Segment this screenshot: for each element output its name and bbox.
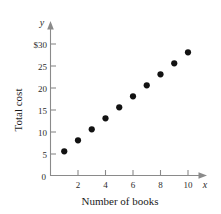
y-tick-label-30: $30 — [34, 40, 48, 50]
y-tick-marks — [51, 44, 57, 154]
data-point — [89, 126, 95, 132]
y-tick-label-5: 5 — [43, 150, 48, 160]
data-point — [185, 49, 191, 55]
x-tick-label-10: 10 — [184, 180, 194, 190]
x-tick-label-4: 4 — [103, 180, 108, 190]
y-axis-arrow-icon — [47, 21, 54, 30]
y-tick-label-10: 10 — [38, 128, 48, 138]
data-point-series — [61, 49, 191, 154]
y-tick-label-25: 25 — [38, 62, 48, 72]
x-tick-label-2: 2 — [76, 180, 81, 190]
x-axis — [51, 172, 208, 179]
x-axis-title: Number of books — [82, 195, 159, 207]
x-axis-variable-label: x — [202, 179, 208, 190]
data-point — [75, 137, 81, 143]
data-point — [116, 104, 122, 110]
data-point — [144, 82, 150, 88]
data-point — [171, 60, 177, 66]
x-tick-label-8: 8 — [158, 180, 163, 190]
y-tick-label-15: 15 — [38, 106, 48, 116]
chart-canvas: $30 25 20 15 10 5 0 2 4 6 8 10 y x Total… — [0, 0, 221, 214]
y-axis-variable-label: y — [39, 17, 45, 28]
data-point — [130, 93, 136, 99]
origin-label: 0 — [42, 172, 47, 182]
data-point — [102, 115, 108, 121]
data-point — [61, 148, 67, 154]
y-axis-title: Total cost — [12, 89, 24, 132]
x-tick-labels: 2 4 6 8 10 — [76, 180, 193, 190]
x-axis-arrow-icon — [199, 172, 208, 179]
y-tick-label-20: 20 — [38, 84, 48, 94]
data-point — [157, 71, 163, 77]
y-tick-labels: $30 25 20 15 10 5 — [34, 40, 48, 160]
x-tick-marks — [78, 170, 188, 176]
x-tick-label-6: 6 — [131, 180, 136, 190]
scatter-plot-figure: $30 25 20 15 10 5 0 2 4 6 8 10 y x Total… — [0, 0, 221, 214]
